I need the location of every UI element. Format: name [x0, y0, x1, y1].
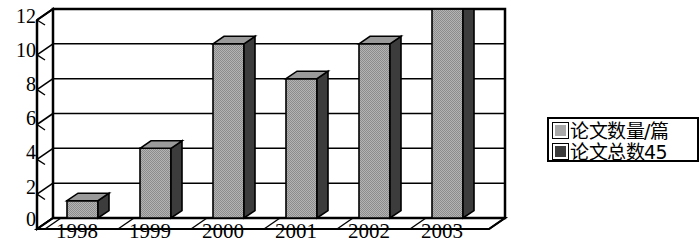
legend-label-1: 论文总数45 [570, 142, 667, 162]
chart-legend: 论文数量/篇 论文总数45 [547, 117, 699, 162]
bar-front-2001 [286, 79, 317, 218]
bar-front-2000 [213, 44, 244, 218]
bar-front-1999 [140, 148, 171, 218]
bar-side-2000 [244, 36, 255, 218]
legend-label-0: 论文数量/篇 [570, 121, 668, 141]
legend-item-0[interactable]: 论文数量/篇 [552, 120, 697, 141]
x-axis-tick-labels: 1998 1999 2000 2001 2002 2003 [0, 219, 695, 245]
bar-2000 [213, 36, 255, 218]
legend-swatch-dark-gray-icon [553, 144, 568, 159]
bar-side-1999 [171, 141, 182, 218]
x-tick-label-2003: 2003 [397, 219, 487, 243]
bar-side-2002 [390, 36, 401, 218]
bar-2002 [359, 36, 401, 218]
bar-side-2001 [317, 71, 328, 218]
bar-2001 [286, 71, 328, 218]
legend-swatch-light-gray-icon [553, 123, 568, 138]
bar-front-2002 [359, 44, 390, 218]
bar-front-2003 [432, 9, 463, 218]
bar-1998 [67, 193, 109, 218]
bar-side-2003 [463, 9, 474, 218]
legend-item-1[interactable]: 论文总数45 [552, 141, 697, 162]
bar-front-1998 [67, 201, 98, 218]
bar-1999 [140, 141, 182, 218]
bar-2003 [432, 9, 474, 218]
